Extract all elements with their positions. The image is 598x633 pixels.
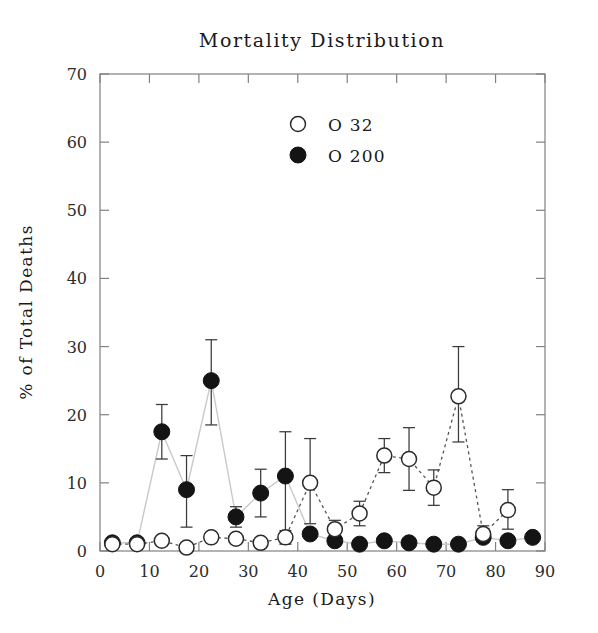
x-tick-label-10: 10 (139, 562, 159, 581)
y-tick-label-40: 40 (67, 269, 87, 288)
y-tick-label-50: 50 (67, 201, 87, 220)
x-tick-label-20: 20 (189, 562, 209, 581)
x-tick-label-90: 90 (535, 562, 555, 581)
x-tick-label-50: 50 (337, 562, 357, 581)
chart-title: Mortality Distribution (199, 29, 445, 51)
data-point-o-32 (303, 475, 318, 490)
y-tick-label-30: 30 (67, 338, 87, 357)
data-point-o-200 (228, 509, 244, 525)
mortality-distribution-figure: Mortality Distribution 010203040506070 0… (0, 0, 598, 633)
data-point-o-32 (253, 535, 268, 550)
data-point-o-32 (204, 530, 219, 545)
x-tick-label-80: 80 (485, 562, 505, 581)
data-point-o-200 (179, 482, 195, 498)
y-tick-label-10: 10 (67, 474, 87, 493)
data-point-o-200 (302, 526, 318, 542)
data-point-o-200 (525, 529, 541, 545)
legend-marker-open-circle (291, 117, 306, 132)
data-point-o-200 (253, 485, 269, 501)
data-point-o-32 (451, 389, 466, 404)
x-tick-label-70: 70 (436, 562, 456, 581)
data-point-o-32 (402, 452, 417, 467)
data-point-o-32 (179, 540, 194, 555)
data-point-o-32 (426, 480, 441, 495)
data-point-o-200 (426, 536, 442, 552)
x-tick-label-0: 0 (95, 562, 105, 581)
data-point-o-200 (500, 533, 516, 549)
x-tick-label-30: 30 (238, 562, 258, 581)
data-point-o-32 (500, 503, 515, 518)
data-point-o-200 (154, 424, 170, 440)
y-tick-label-0: 0 (77, 542, 87, 561)
data-point-o-32 (130, 537, 145, 552)
data-point-o-200 (203, 373, 219, 389)
x-axis-label: Age (Days) (267, 589, 376, 609)
legend-marker-filled-circle (290, 147, 306, 163)
data-point-o-200 (401, 535, 417, 551)
legend-label-o-32: O 32 (328, 115, 374, 135)
y-axis-label: % of Total Deaths (16, 224, 36, 400)
y-tick-label-70: 70 (67, 65, 87, 84)
data-point-o-200 (450, 536, 466, 552)
data-point-o-32 (352, 506, 367, 521)
y-tick-label-60: 60 (67, 133, 87, 152)
data-point-o-32 (476, 526, 491, 541)
data-point-o-200 (277, 468, 293, 484)
data-point-o-32 (154, 533, 169, 548)
y-tick-label-20: 20 (67, 406, 87, 425)
data-point-o-32 (278, 530, 293, 545)
data-point-o-200 (352, 536, 368, 552)
data-point-o-32 (377, 448, 392, 463)
data-point-o-200 (376, 533, 392, 549)
data-point-o-32 (228, 531, 243, 546)
x-tick-label-40: 40 (288, 562, 308, 581)
x-tick-label-60: 60 (386, 562, 406, 581)
data-point-o-32 (105, 537, 120, 552)
chart-canvas: Mortality Distribution 010203040506070 0… (0, 0, 598, 633)
data-point-o-32 (327, 522, 342, 537)
legend-label-o-200: O 200 (328, 146, 386, 166)
